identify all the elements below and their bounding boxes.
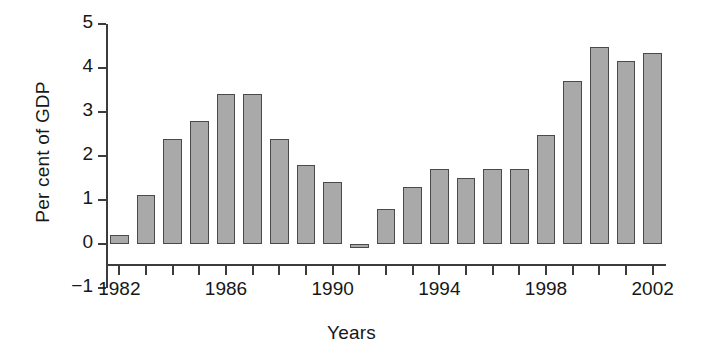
x-axis-tick-label: 1998	[525, 279, 567, 298]
bar	[510, 169, 529, 244]
y-axis-title: Per cent of GDP	[32, 37, 54, 267]
bar	[457, 178, 476, 244]
bar	[617, 61, 636, 244]
bar	[563, 81, 582, 244]
y-axis-tick: 3	[98, 111, 106, 113]
bar	[270, 139, 289, 244]
bar-chart: Per cent of GDP 543210−1 198219861990199…	[0, 0, 703, 356]
plot-area: 543210−1 198219861990199419982002	[106, 24, 666, 288]
bar	[537, 135, 556, 244]
x-axis-tick	[198, 266, 200, 275]
x-axis-tick	[252, 266, 254, 275]
bar	[137, 195, 156, 244]
y-axis-tick: 0	[98, 243, 106, 245]
x-axis-tick	[278, 266, 280, 275]
bar	[323, 182, 342, 244]
y-axis-tick: 2	[98, 155, 106, 157]
x-axis-tick-label: 2002	[632, 279, 674, 298]
x-axis-tick	[465, 266, 467, 275]
bar	[377, 209, 396, 244]
x-axis-tick	[358, 266, 360, 275]
x-axis-tick-label: 1990	[312, 279, 354, 298]
x-axis-tick-label: 1982	[98, 279, 140, 298]
bar	[297, 165, 316, 244]
y-axis-line	[106, 24, 108, 288]
bar	[110, 235, 129, 244]
y-axis-tick: 4	[98, 67, 106, 69]
x-axis-title: Years	[0, 322, 703, 344]
x-axis-tick	[545, 266, 547, 275]
bar	[643, 53, 662, 244]
bar	[590, 47, 609, 244]
y-axis-tick-label: 2	[82, 144, 93, 163]
bar	[350, 244, 369, 248]
x-axis-tick	[625, 266, 627, 275]
x-axis-tick	[518, 266, 520, 275]
bar	[190, 121, 209, 244]
x-axis-tick	[145, 266, 147, 275]
x-axis-tick	[385, 266, 387, 275]
x-axis-tick	[305, 266, 307, 275]
y-axis-tick: 1	[98, 199, 106, 201]
bar	[483, 169, 502, 244]
bar	[163, 139, 182, 244]
x-axis-tick-label: 1994	[418, 279, 460, 298]
x-axis-tick	[572, 266, 574, 275]
x-axis-tick	[492, 266, 494, 275]
x-axis-tick	[652, 266, 654, 275]
x-axis-tick-label: 1986	[205, 279, 247, 298]
bar	[217, 94, 236, 244]
x-axis-tick	[438, 266, 440, 275]
y-axis-tick-label: 4	[82, 56, 93, 75]
y-axis-tick-label: 3	[82, 100, 93, 119]
bar	[430, 169, 449, 244]
x-axis-tick	[598, 266, 600, 275]
bar	[403, 187, 422, 244]
x-axis-tick	[118, 266, 120, 275]
y-axis-tick-label: 5	[82, 12, 93, 31]
y-axis-tick-label: 0	[82, 232, 93, 251]
x-axis-tick	[172, 266, 174, 275]
bar	[243, 94, 262, 244]
x-axis-tick	[225, 266, 227, 275]
y-axis-tick-label: 1	[82, 188, 93, 207]
x-axis-tick	[332, 266, 334, 275]
y-axis-tick: 5	[98, 23, 106, 25]
x-axis-tick	[412, 266, 414, 275]
y-axis-tick-label: −1	[71, 276, 93, 295]
